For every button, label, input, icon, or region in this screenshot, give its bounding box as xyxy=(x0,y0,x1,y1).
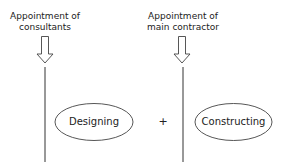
left-down-arrow-icon xyxy=(37,37,53,64)
plus-operator: + xyxy=(156,115,170,128)
constructing-phase-label: Constructing xyxy=(195,116,272,128)
right-down-arrow-icon xyxy=(174,37,190,64)
diagram-canvas xyxy=(0,0,288,168)
designing-phase-label: Designing xyxy=(55,116,133,128)
